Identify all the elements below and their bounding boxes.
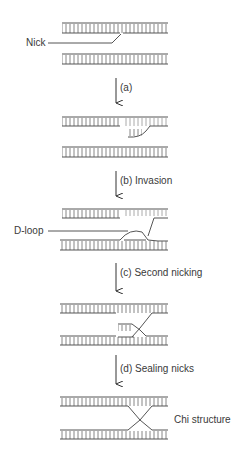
d-loop-label: D-loop (14, 225, 43, 237)
stage-1-duplexes (48, 23, 168, 64)
stage-3-d-loop (48, 209, 168, 250)
stage-5-chi-structure (60, 397, 168, 439)
nick-label: Nick (26, 37, 45, 49)
step-c-label: (c) Second nicking (120, 267, 202, 279)
stage-2-duplexes (62, 117, 168, 157)
step-d-label: (d) Sealing nicks (120, 363, 194, 375)
chi-structure-label: Chi structure (174, 414, 231, 426)
step-a-label: (a) (120, 82, 132, 94)
step-b-label: (b) Invasion (120, 175, 172, 187)
stage-4-second-nick (60, 304, 168, 345)
